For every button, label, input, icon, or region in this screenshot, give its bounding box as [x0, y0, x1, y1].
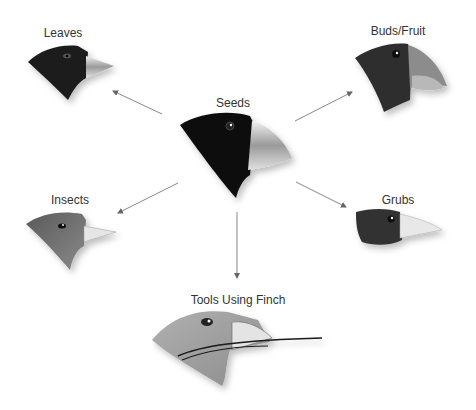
- arrow-to-leaves: [113, 91, 162, 114]
- finch-head-leaves: [28, 46, 114, 100]
- arrow-to-buds-fruit: [295, 92, 352, 121]
- label-leaves: Leaves: [44, 26, 83, 40]
- label-insects: Insects: [51, 193, 89, 207]
- finch-head-grubs: [356, 209, 442, 245]
- label-tools-using-finch: Tools Using Finch: [191, 293, 286, 307]
- arrow-to-insects: [118, 183, 178, 213]
- label-buds-fruit: Buds/Fruit: [371, 24, 426, 38]
- finch-head-tools-using: [152, 311, 322, 386]
- finch-head-buds-fruit: [355, 44, 447, 112]
- arrow-to-grubs: [296, 182, 346, 207]
- finch-head-insects: [26, 212, 116, 270]
- finch-head-seeds: [180, 113, 292, 198]
- label-seeds: Seeds: [216, 96, 250, 110]
- label-grubs: Grubs: [382, 193, 415, 207]
